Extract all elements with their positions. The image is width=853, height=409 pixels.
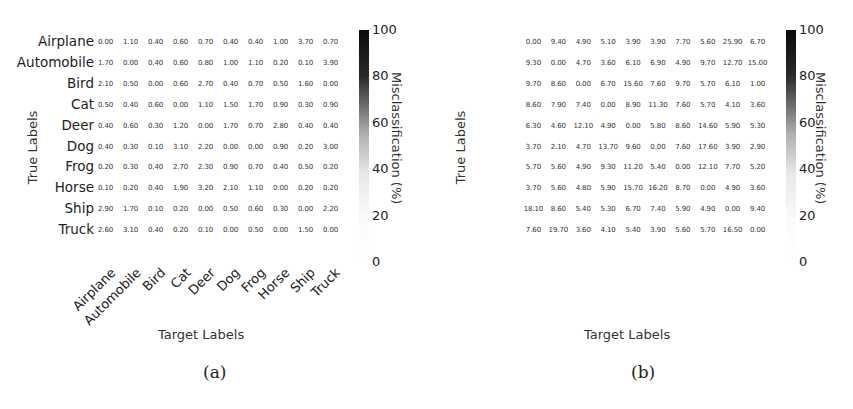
heatmap-cell: 6.10: [720, 80, 745, 88]
caption-a: (a): [203, 362, 226, 382]
colorbar-tick: 100: [372, 22, 397, 37]
heatmap-cell: 3.60: [745, 101, 770, 109]
heatmap-cell: 11.20: [621, 163, 646, 171]
y-axis-label: True Labels: [25, 111, 40, 185]
heatmap-cell: 16.50: [720, 226, 745, 234]
heatmap-cell: 1.70: [93, 59, 118, 67]
heatmap-cell: 0.00: [143, 80, 168, 88]
heatmap-cell: 15.00: [745, 59, 770, 67]
heatmap-cell: 8.60: [521, 101, 546, 109]
heatmap-cell: 12.10: [571, 122, 596, 130]
heatmap-cell: 5.70: [521, 163, 546, 171]
heatmap-cell: 0.70: [243, 122, 268, 130]
heatmap-cell: 0.40: [293, 122, 318, 130]
heatmap-cell: 0.00: [93, 38, 118, 46]
heatmap-cell: 0.00: [546, 59, 571, 67]
heatmap-cell: 0.30: [118, 143, 143, 151]
heatmap-cell: 0.40: [143, 226, 168, 234]
heatmap-cell: 3.70: [521, 184, 546, 192]
heatmap-cell: 0.00: [243, 143, 268, 151]
heatmap-cell: 1.10: [118, 38, 143, 46]
heatmap-cell: 3.90: [621, 38, 646, 46]
heatmap-cell: 5.20: [745, 163, 770, 171]
heatmap-cell: 1.50: [293, 226, 318, 234]
heatmap-cell: 0.70: [243, 163, 268, 171]
heatmap-cell: 2.20: [193, 143, 218, 151]
heatmap-cell: 0.00: [745, 226, 770, 234]
heatmap-cell: 7.70: [720, 163, 745, 171]
heatmap-cell: 0.00: [118, 59, 143, 67]
heatmap-cell: 0.00: [318, 226, 343, 234]
heatmap-cell: 6.30: [521, 122, 546, 130]
heatmap-cell: 0.00: [168, 101, 193, 109]
heatmap-cell: 3.20: [193, 184, 218, 192]
row-label: Deer: [61, 117, 94, 133]
heatmap-cell: 0.00: [646, 143, 671, 151]
heatmap-cell: 0.40: [318, 122, 343, 130]
heatmap-cell: 3.60: [596, 59, 621, 67]
heatmap-cell: 5.10: [596, 38, 621, 46]
heatmap-cell: 0.60: [168, 80, 193, 88]
heatmap-cell: 0.10: [293, 59, 318, 67]
heatmap-cell: 8.60: [546, 205, 571, 213]
heatmap-cell: 1.00: [268, 38, 293, 46]
heatmap-cell: 3.10: [168, 143, 193, 151]
heatmap-cell: 0.10: [143, 143, 168, 151]
heatmap-cell: 3.90: [720, 143, 745, 151]
heatmap-cell: 0.20: [168, 205, 193, 213]
heatmap-cell: 2.60: [93, 226, 118, 234]
heatmap-cell: 4.80: [571, 184, 596, 192]
heatmap-cell: 2.80: [268, 122, 293, 130]
heatmap-cell: 0.10: [193, 226, 218, 234]
heatmap-cell: 0.40: [118, 101, 143, 109]
heatmap-cell: 6.10: [621, 59, 646, 67]
heatmap-cell: 0.40: [93, 143, 118, 151]
heatmap-cell: 2.10: [218, 184, 243, 192]
heatmap-cell: 5.60: [670, 226, 695, 234]
heatmap-cell: 1.90: [168, 184, 193, 192]
heatmap-cell: 0.90: [318, 101, 343, 109]
heatmap-cell: 0.00: [521, 38, 546, 46]
heatmap-cell: 1.60: [293, 80, 318, 88]
heatmap-cell: 7.60: [521, 226, 546, 234]
heatmap-cell: 4.60: [546, 122, 571, 130]
heatmap-cell: 4.70: [571, 59, 596, 67]
heatmap-cell: 0.10: [93, 184, 118, 192]
heatmap-cell: 0.00: [218, 226, 243, 234]
heatmap-cell: 3.70: [521, 143, 546, 151]
heatmap-cell: 5.30: [745, 122, 770, 130]
row-label: Ship: [65, 200, 94, 216]
heatmap-cell: 5.90: [720, 122, 745, 130]
colorbar-tick: 100: [799, 22, 824, 37]
heatmap-cell: 0.30: [118, 163, 143, 171]
heatmap-cell: 0.20: [93, 163, 118, 171]
row-label: Truck: [58, 221, 94, 237]
row-label: Frog: [65, 158, 94, 174]
heatmap-cell: 3.90: [318, 59, 343, 67]
heatmap-cell: 16.20: [646, 184, 671, 192]
colorbar: [359, 30, 369, 262]
row-label: Cat: [71, 96, 94, 112]
heatmap-cell: 0.00: [318, 80, 343, 88]
heatmap-cell: 5.70: [695, 101, 720, 109]
caption-b: (b): [631, 362, 655, 382]
heatmap-cell: 4.90: [571, 38, 596, 46]
colorbar-label: Misclassification (%): [389, 72, 404, 204]
colorbar-label: Misclassification (%): [813, 72, 828, 204]
heatmap-cell: 2.10: [546, 143, 571, 151]
y-axis-label: True Labels: [453, 111, 468, 185]
heatmap-cell: 0.40: [143, 59, 168, 67]
row-label: Bird: [67, 75, 94, 91]
colorbar-tick: 0: [799, 254, 807, 269]
heatmap-cell: 0.40: [268, 163, 293, 171]
heatmap-cell: 11.30: [646, 101, 671, 109]
heatmap-cell: 0.50: [293, 163, 318, 171]
heatmap-cell: 0.60: [168, 38, 193, 46]
heatmap-cell: 0.60: [243, 205, 268, 213]
heatmap-cell: 0.40: [143, 38, 168, 46]
heatmap-cell: 0.30: [143, 122, 168, 130]
heatmap-cell: 4.10: [596, 226, 621, 234]
heatmap-cell: 6.70: [596, 80, 621, 88]
heatmap-cell: 0.00: [293, 205, 318, 213]
heatmap-cell: 15.70: [621, 184, 646, 192]
